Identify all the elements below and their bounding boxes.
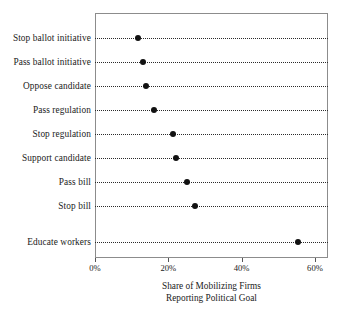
category-label: Oppose candidate bbox=[0, 81, 91, 91]
category-label: Stop ballot initiative bbox=[0, 33, 91, 43]
x-tick-label: 40% bbox=[222, 263, 262, 273]
guide-row bbox=[95, 38, 328, 40]
x-axis-title: Share of Mobilizing Firms Reporting Poli… bbox=[95, 281, 328, 304]
x-tick-label: 0% bbox=[75, 263, 115, 273]
category-label: Educate workers bbox=[0, 237, 91, 247]
guide-row bbox=[95, 182, 328, 184]
guide-row bbox=[95, 134, 328, 136]
x-tick-mark bbox=[95, 258, 96, 262]
x-tick-mark bbox=[242, 258, 243, 262]
category-label: Stop bill bbox=[0, 201, 91, 211]
data-point bbox=[151, 107, 157, 113]
data-point bbox=[135, 35, 141, 41]
data-point bbox=[184, 179, 190, 185]
x-tick-label: 60% bbox=[295, 263, 335, 273]
guide-row bbox=[95, 158, 328, 160]
data-point bbox=[143, 83, 149, 89]
guide-row bbox=[95, 110, 328, 112]
x-tick-label: 20% bbox=[148, 263, 188, 273]
category-label: Pass bill bbox=[0, 177, 91, 187]
category-label: Pass regulation bbox=[0, 105, 91, 115]
guide-row bbox=[95, 206, 328, 208]
guide-row bbox=[95, 62, 328, 64]
dot-plot-figure: Stop ballot initiative Pass ballot initi… bbox=[0, 0, 342, 319]
x-axis-title-line2: Reporting Political Goal bbox=[95, 293, 328, 305]
data-point bbox=[140, 59, 146, 65]
data-point bbox=[173, 155, 179, 161]
guide-row bbox=[95, 242, 328, 244]
category-label: Support candidate bbox=[0, 153, 91, 163]
x-tick-mark bbox=[315, 258, 316, 262]
x-tick-mark bbox=[168, 258, 169, 262]
guide-row bbox=[95, 86, 328, 88]
category-label: Stop regulation bbox=[0, 129, 91, 139]
category-label: Pass ballot initiative bbox=[0, 57, 91, 67]
x-axis-title-line1: Share of Mobilizing Firms bbox=[95, 281, 328, 293]
data-point bbox=[295, 239, 301, 245]
data-point bbox=[192, 203, 198, 209]
